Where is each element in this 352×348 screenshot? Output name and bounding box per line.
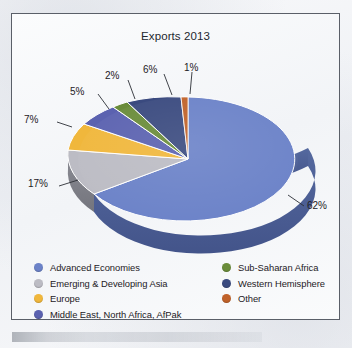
legend-label: Europe xyxy=(50,293,80,304)
legend-swatch-icon xyxy=(222,279,231,288)
screenshot-page: Exports 2013 xyxy=(0,0,352,348)
pie-label-other: 1% xyxy=(184,62,198,73)
pie-label-advanced-economies: 62% xyxy=(307,200,327,211)
pie-label-middle-east: 5% xyxy=(70,86,84,97)
chart-frame: Exports 2013 xyxy=(11,13,340,320)
legend-label: Middle East, North Africa, AfPak xyxy=(50,309,181,320)
chart-legend: Advanced Economies Emerging & Developing… xyxy=(24,260,340,322)
legend-swatch-icon xyxy=(34,294,43,303)
pie-label-emerging-asia: 17% xyxy=(28,178,48,189)
legend-swatch-icon xyxy=(222,263,231,272)
legend-swatch-icon xyxy=(34,310,43,319)
legend-item-middle-east-north-africa-afpak[interactable]: Middle East, North Africa, AfPak xyxy=(34,307,224,323)
legend-label: Emerging & Developing Asia xyxy=(50,278,168,289)
legend-swatch-icon xyxy=(34,279,43,288)
pie-label-europe: 7% xyxy=(24,114,38,125)
legend-label: Western Hemisphere xyxy=(238,278,325,289)
pie-label-western-hemisphere: 6% xyxy=(143,64,157,75)
legend-item-advanced-economies[interactable]: Advanced Economies xyxy=(34,260,224,276)
legend-item-sub-saharan-africa[interactable]: Sub-Saharan Africa xyxy=(222,260,344,276)
legend-swatch-icon xyxy=(222,294,231,303)
legend-label: Advanced Economies xyxy=(50,262,140,273)
legend-item-europe[interactable]: Europe xyxy=(34,291,224,307)
legend-column-left: Advanced Economies Emerging & Developing… xyxy=(34,260,224,322)
pie-chart: 7% 5% 2% 6% 1% 17% 62% xyxy=(12,14,341,254)
legend-label: Other xyxy=(238,293,261,304)
pie-chart-svg xyxy=(12,14,341,254)
legend-label: Sub-Saharan Africa xyxy=(238,262,318,273)
legend-item-other[interactable]: Other xyxy=(222,291,344,307)
legend-swatch-icon xyxy=(34,263,43,272)
pie-sheen xyxy=(78,97,298,221)
pie-label-sub-saharan-africa: 2% xyxy=(105,70,119,81)
legend-item-emerging-developing-asia[interactable]: Emerging & Developing Asia xyxy=(34,276,224,292)
page-bottom-artifact xyxy=(12,332,262,342)
legend-item-western-hemisphere[interactable]: Western Hemisphere xyxy=(222,276,344,292)
legend-column-right: Sub-Saharan Africa Western Hemisphere Ot… xyxy=(222,260,344,307)
